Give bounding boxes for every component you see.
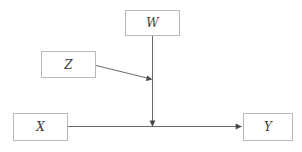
edge-x-to-y [68,124,242,130]
edge-z-to-w-path [96,66,153,82]
node-y[interactable]: Y [243,113,293,141]
edge-w-to-xy [150,36,156,127]
node-x[interactable]: X [13,113,68,141]
node-x-label: X [36,121,45,133]
node-z-label: Z [64,59,73,71]
node-w[interactable]: W [125,10,180,36]
node-w-label: W [146,17,159,29]
diagram-canvas: W Z X Y [0,0,302,152]
node-y-label: Y [264,121,272,133]
node-z[interactable]: Z [41,51,96,78]
